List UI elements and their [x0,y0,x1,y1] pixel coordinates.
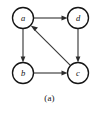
edge-a-to-b [21,29,26,63]
edge-d-to-c [76,29,81,63]
figure-container: a d b c (a) [0,0,99,113]
edge-a-to-b-arrowhead [21,57,26,63]
edge-b-to-c-arrowhead [62,71,68,76]
edge-b-to-c [34,71,68,76]
figure-caption: (a) [0,93,99,103]
edge-c-to-a [31,26,71,66]
node-c-label: c [76,68,80,78]
edge-a-to-d-arrowhead [62,16,68,21]
edge-a-to-d [34,16,68,21]
node-d[interactable]: d [68,8,89,29]
node-b[interactable]: b [13,63,34,84]
node-c[interactable]: c [68,63,89,84]
node-b-label: b [21,68,25,78]
edge-c-to-a-arrowhead [31,26,38,31]
node-a[interactable]: a [13,8,34,29]
node-a-label: a [21,13,25,23]
edge-c-to-a-line [35,30,71,66]
edge-d-to-c-arrowhead [76,57,81,63]
directed-graph: a d b c [0,0,99,95]
